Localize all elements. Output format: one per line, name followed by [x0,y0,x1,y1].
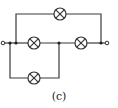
junction-dot [99,41,102,44]
terminal-left-icon [1,41,5,45]
wires [5,14,105,78]
lamp-icon [54,8,66,20]
junction-dot [8,41,11,44]
lamp-icon [28,72,40,84]
wire-bottom-right [40,43,59,78]
wire-bottom-left [10,43,28,78]
junction-dot [57,41,60,44]
lamp-icon [28,37,40,49]
lamp-icon [75,37,87,49]
junction-dot [14,41,17,44]
terminal-right-icon [105,41,109,45]
figure-caption: (c) [0,90,118,103]
